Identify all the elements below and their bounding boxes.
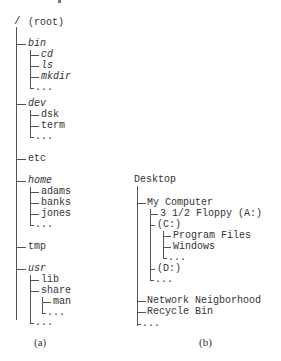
branch-line	[30, 192, 39, 193]
share-trunk-line	[42, 297, 43, 313]
dir-dev[interactable]: dev	[28, 98, 46, 109]
branch-line	[150, 214, 158, 215]
dir-etc[interactable]: etc	[28, 153, 46, 164]
branch-line	[30, 203, 39, 204]
ellipsis: ...	[35, 131, 53, 142]
branch-line	[30, 214, 39, 215]
dir-man[interactable]: man	[53, 296, 71, 307]
branch-line	[137, 312, 146, 313]
dir-term[interactable]: term	[41, 120, 65, 131]
branch-line	[16, 44, 26, 45]
branch-line	[137, 324, 141, 325]
dir-adams[interactable]: adams	[41, 186, 71, 197]
file-ls[interactable]: ls	[41, 60, 53, 71]
ellipsis: ...	[168, 252, 186, 263]
node-drive-c[interactable]: (C:)	[157, 219, 181, 230]
branch-line	[30, 88, 34, 89]
branch-line	[30, 115, 39, 116]
node-windows[interactable]: Windows	[173, 241, 215, 252]
dir-jones[interactable]: jones	[41, 208, 71, 219]
node-my-computer[interactable]: My Computer	[147, 197, 213, 208]
branch-line	[30, 77, 39, 78]
node-network-neighborhood[interactable]: Network Neigborhood	[147, 295, 261, 306]
branch-line	[30, 55, 39, 56]
branch-line	[30, 280, 39, 281]
dir-bin[interactable]: bin	[28, 38, 46, 49]
branch-line	[16, 104, 26, 105]
file-mkdir[interactable]: mkdir	[41, 71, 71, 82]
ellipsis: ...	[142, 318, 160, 329]
desktop-trunk-line	[137, 186, 138, 326]
caption-a: (a)	[34, 336, 46, 348]
branch-line	[150, 280, 154, 281]
node-desktop[interactable]: Desktop	[134, 174, 176, 185]
branch-line	[30, 291, 39, 292]
ellipsis: ...	[35, 82, 53, 93]
branch-line	[16, 159, 26, 160]
branch-line	[16, 269, 26, 270]
root-slash: /	[14, 16, 21, 27]
caption-b: (b)	[199, 336, 212, 348]
branch-line	[30, 126, 39, 127]
usr-trunk-line	[30, 275, 31, 323]
dir-usr[interactable]: usr	[28, 263, 46, 274]
branch-line	[163, 258, 167, 259]
dir-home[interactable]: home	[28, 175, 52, 186]
node-program-files[interactable]: Program Files	[173, 230, 251, 241]
branch-line	[150, 225, 155, 226]
branch-line	[42, 302, 51, 303]
branch-line	[42, 313, 46, 314]
node-drive-d[interactable]: (D:)	[157, 263, 181, 274]
branch-line	[137, 203, 146, 204]
branch-line	[150, 269, 155, 270]
branch-line	[16, 247, 26, 248]
ellipsis: ...	[35, 317, 53, 328]
clipped-glyph	[58, 0, 61, 3]
dir-dsk[interactable]: dsk	[41, 109, 59, 120]
branch-line	[30, 66, 39, 67]
branch-line	[16, 181, 26, 182]
branch-line	[137, 301, 146, 302]
node-floppy-a[interactable]: 3 1/2 Floppy (A:)	[160, 208, 262, 219]
branch-line	[163, 247, 171, 248]
branch-line	[30, 137, 34, 138]
dir-lib[interactable]: lib	[41, 274, 59, 285]
branch-line	[30, 225, 34, 226]
ellipsis: ...	[35, 219, 53, 230]
branch-line	[30, 323, 34, 324]
root-label: (root)	[28, 17, 64, 28]
dir-tmp[interactable]: tmp	[28, 241, 46, 252]
ellipsis: ...	[155, 274, 173, 285]
node-recycle-bin[interactable]: Recycle Bin	[147, 306, 213, 317]
file-cd[interactable]: cd	[41, 49, 53, 60]
my-computer-trunk-line	[150, 209, 151, 281]
branch-line	[163, 236, 171, 237]
root-trunk-line	[16, 27, 17, 320]
dir-share[interactable]: share	[41, 285, 71, 296]
dir-banks[interactable]: banks	[41, 197, 71, 208]
